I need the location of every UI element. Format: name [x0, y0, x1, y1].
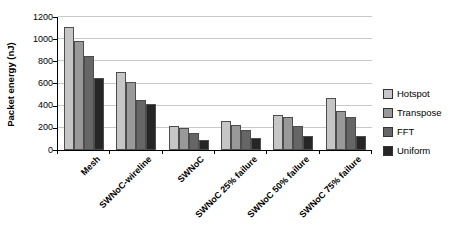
y-tick-mark	[53, 128, 57, 129]
bar-hotspot-2	[116, 72, 126, 150]
bar-fft-2	[136, 100, 146, 150]
bar-fft-6	[346, 117, 356, 150]
x-tick-mark	[57, 151, 58, 154]
y-tick-label: 800	[23, 56, 53, 67]
legend-marker-uniform-icon	[383, 146, 393, 156]
packet-energy-bar-chart: Packet energy (nJ) 020040060080010001200…	[0, 0, 452, 232]
y-tick-label: 0	[23, 145, 53, 156]
bar-hotspot-3	[169, 126, 179, 150]
legend-label: Uniform	[397, 145, 430, 156]
legend-item-fft: FFT	[383, 122, 442, 141]
gridline-600	[58, 83, 372, 84]
bar-transpose-6	[336, 111, 346, 150]
y-tick-mark	[53, 17, 57, 18]
x-tick-mark	[109, 151, 110, 154]
x-tick-mark	[162, 151, 163, 154]
gridline-1000	[58, 38, 372, 39]
x-tick-mark	[371, 151, 372, 154]
gridline-1200	[58, 16, 372, 17]
y-tick-mark	[53, 61, 57, 62]
y-tick-mark	[53, 39, 57, 40]
y-tick-mark	[53, 83, 57, 84]
bar-fft-5	[293, 126, 303, 150]
bar-uniform-1	[94, 78, 104, 150]
bar-uniform-2	[146, 104, 156, 150]
bar-uniform-3	[199, 140, 209, 150]
y-axis-title: Packet energy (nJ)	[4, 5, 17, 165]
bar-fft-3	[189, 133, 199, 150]
x-tick-mark	[214, 151, 215, 154]
legend-marker-transpose-icon	[383, 108, 393, 118]
legend-label: Hotspot	[397, 88, 430, 99]
legend-marker-fft-icon	[383, 127, 393, 137]
bar-fft-1	[84, 56, 94, 150]
bar-uniform-5	[303, 136, 313, 150]
plot-area	[57, 17, 372, 151]
legend: HotspotTransposeFFTUniform	[383, 84, 442, 160]
x-category-label-text: SWNoC	[176, 154, 206, 184]
legend-item-hotspot: Hotspot	[383, 84, 442, 103]
bar-uniform-6	[356, 136, 366, 150]
gridline-800	[58, 60, 372, 61]
bar-hotspot-5	[273, 115, 283, 150]
y-tick-mark	[53, 106, 57, 107]
x-category-label-text: Mesh	[78, 154, 101, 177]
y-tick-label: 200	[23, 122, 53, 133]
y-tick-label: 600	[23, 78, 53, 89]
y-tick-label: 1000	[23, 34, 53, 45]
x-tick-mark	[319, 151, 320, 154]
bar-transpose-2	[126, 82, 136, 150]
legend-item-uniform: Uniform	[383, 141, 442, 160]
bar-hotspot-6	[326, 98, 336, 150]
bar-transpose-5	[283, 117, 293, 150]
x-category-label-text: SWNoC-wireline	[98, 154, 154, 210]
bar-hotspot-1	[64, 27, 74, 150]
bar-hotspot-4	[221, 121, 231, 150]
legend-label: Transpose	[397, 107, 442, 118]
bar-uniform-4	[251, 138, 261, 150]
legend-label: FFT	[397, 126, 414, 137]
legend-marker-hotspot-icon	[383, 89, 393, 99]
bar-transpose-3	[179, 128, 189, 150]
bar-transpose-4	[231, 125, 241, 150]
y-tick-label: 400	[23, 100, 53, 111]
bar-transpose-1	[74, 41, 84, 150]
bar-fft-4	[241, 130, 251, 150]
x-tick-mark	[266, 151, 267, 154]
legend-item-transpose: Transpose	[383, 103, 442, 122]
y-tick-label: 1200	[23, 12, 53, 23]
